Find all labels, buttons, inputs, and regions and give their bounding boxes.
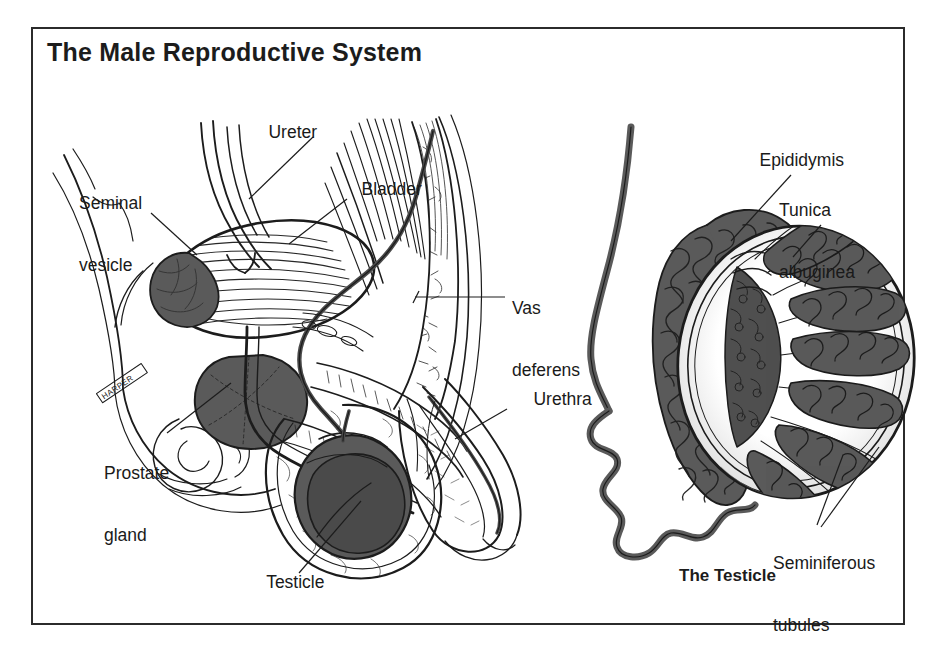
label-testicle: Testicle — [247, 551, 325, 613]
label-tunica-albuginea: Tunica albuginea — [779, 159, 855, 323]
panel-caption-testicle: The Testicle — [679, 566, 776, 586]
label-prostate-gland: Prostate gland — [104, 422, 169, 586]
label-bladder: Bladder — [342, 158, 422, 220]
label-seminal-vesicle: Seminal vesicle — [79, 152, 142, 316]
label-ureter: Ureter — [249, 101, 317, 163]
label-urethra: Urethra — [514, 368, 592, 430]
figure-root: The Male Reproductive System — [0, 0, 936, 662]
label-seminiferous-tubules: Seminiferous tubules — [773, 512, 875, 662]
